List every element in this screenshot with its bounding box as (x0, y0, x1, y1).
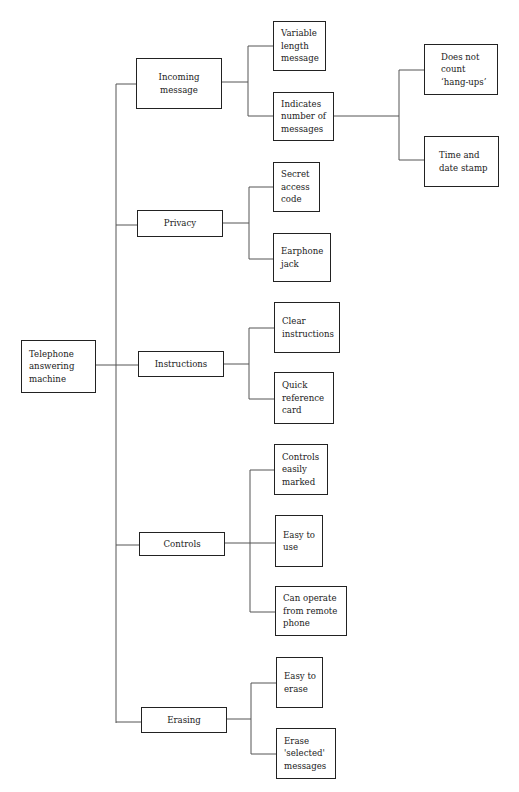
node-privacy: Privacy (137, 210, 223, 237)
node-label: Does not count ‘hang-ups’ (441, 51, 487, 89)
node-label: Quick reference card (282, 379, 324, 417)
node-earphone-jack: Earphone jack (273, 233, 331, 282)
node-easy-to-use: Easy to use (275, 515, 323, 567)
node-label: Incoming message (159, 71, 200, 96)
node-label: Telephone answering machine (29, 348, 74, 386)
node-label: Controls (163, 538, 200, 551)
node-label: Clear instructions (282, 315, 334, 340)
node-easy-to-erase: Easy to erase (276, 657, 323, 708)
node-label: Variable length message (281, 27, 319, 65)
node-label: Easy to use (283, 529, 315, 554)
node-label: Erase 'selected' messages (284, 735, 326, 773)
node-label: Privacy (164, 217, 196, 230)
node-label: Easy to erase (284, 670, 316, 695)
node-label: Controls easily marked (282, 451, 319, 489)
node-label: Can operate from remote phone (283, 592, 337, 630)
node-secret-access-code: Secret access code (273, 162, 320, 212)
node-quick-reference-card: Quick reference card (274, 372, 334, 424)
node-does-not-count-hang-ups: Does not count ‘hang-ups’ (424, 44, 498, 95)
node-can-operate-from-remote-phone: Can operate from remote phone (275, 586, 347, 636)
node-controls: Controls (139, 532, 225, 556)
node-incoming-message: Incoming message (136, 58, 222, 109)
node-erasing: Erasing (141, 707, 227, 733)
node-label: Instructions (155, 358, 208, 371)
node-label: Time and date stamp (439, 149, 488, 174)
node-indicates-number-of-messages: Indicates number of messages (273, 92, 334, 141)
node-label: Indicates number of messages (281, 98, 326, 136)
node-variable-length-message: Variable length message (273, 21, 326, 71)
node-controls-easily-marked: Controls easily marked (274, 444, 328, 495)
node-label: Secret access code (281, 168, 310, 206)
connector-lines (0, 0, 519, 792)
node-time-and-date-stamp: Time and date stamp (424, 136, 499, 187)
node-label: Earphone jack (281, 245, 323, 270)
node-instructions: Instructions (138, 351, 224, 377)
node-telephone-answering-machine: Telephone answering machine (21, 340, 96, 393)
node-label: Erasing (167, 714, 201, 727)
tree-diagram: Telephone answering machine Incoming mes… (0, 0, 519, 792)
node-erase-selected-messages: Erase 'selected' messages (276, 728, 336, 779)
node-clear-instructions: Clear instructions (274, 302, 340, 353)
